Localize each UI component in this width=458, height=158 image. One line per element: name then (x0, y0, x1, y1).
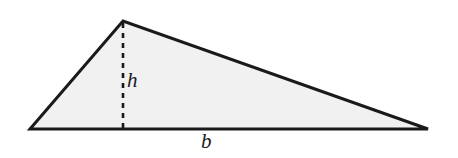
base-label: b (201, 131, 212, 152)
triangle-diagram: h b (0, 0, 458, 158)
height-label: h (127, 70, 138, 91)
triangle-figure-svg (0, 0, 458, 158)
triangle-shape (30, 21, 428, 129)
